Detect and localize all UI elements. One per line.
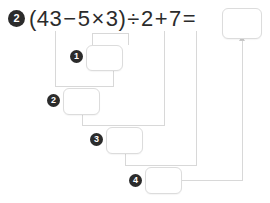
step-4-input-box[interactable] <box>145 167 182 194</box>
equation-token-3: 3 <box>106 6 119 31</box>
connector-step2-to-step3 <box>82 125 165 126</box>
problem-number-badge: 2 <box>8 10 25 27</box>
equation-token-plus: + <box>154 6 169 31</box>
equation-token-7: 7 <box>169 6 182 31</box>
equation-expression: (43−5×3)÷2+7= <box>29 6 197 32</box>
equation-token-divide: ÷ <box>126 6 141 31</box>
step-1-input-box[interactable] <box>86 45 123 71</box>
connector-step4-to-answer <box>242 41 243 181</box>
connector-term-7-down <box>196 31 197 166</box>
step-2-input-box[interactable] <box>63 88 100 115</box>
step-2-badge: 2 <box>47 94 60 107</box>
connector-bracket-5x3 <box>92 33 129 34</box>
equation-token-2: 2 <box>141 6 154 31</box>
connector-43-to-step2 <box>55 86 114 87</box>
step-4-badge: 4 <box>129 174 142 187</box>
connector-step4-out <box>181 180 243 181</box>
connector-step3-to-step4 <box>125 165 197 166</box>
equation-token-open-paren: ( <box>29 6 37 31</box>
step-3-badge: 3 <box>90 133 103 146</box>
equation-token-43: 43 <box>37 6 62 31</box>
connector-term-43-down <box>55 31 56 87</box>
equation-token-minus: − <box>62 6 77 31</box>
worksheet-canvas: 2 (43−5×3)÷2+7= 1 2 3 4 <box>0 0 270 203</box>
step-1-badge: 1 <box>70 50 83 63</box>
connector-term-5-down <box>92 33 93 45</box>
connector-term-3-down <box>128 33 129 45</box>
answer-input-box[interactable] <box>222 8 262 39</box>
step-3-input-box[interactable] <box>106 127 143 154</box>
equation-token-times: × <box>90 6 105 31</box>
equation-token-5: 5 <box>78 6 91 31</box>
connector-term-divide-down <box>164 31 165 126</box>
connector-step1-out <box>113 70 114 87</box>
equation-token-equals: = <box>182 6 197 31</box>
